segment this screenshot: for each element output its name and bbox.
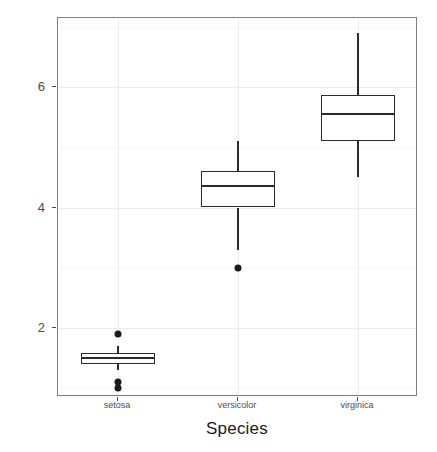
plot-panel xyxy=(57,17,417,396)
y-tick-mark xyxy=(52,327,56,328)
x-tick-mark xyxy=(237,397,238,401)
y-tick-label: 6 xyxy=(0,79,51,94)
y-tick-label: 2 xyxy=(0,319,51,334)
y-axis-ticks: 246 xyxy=(0,0,51,452)
outlier-point-versicolor xyxy=(235,264,242,271)
whisker-lower-setosa xyxy=(117,364,118,370)
x-tick-mark xyxy=(117,397,118,401)
x-axis-title: Species xyxy=(57,419,417,439)
y-tick-label: 4 xyxy=(0,199,51,214)
gridline-minor xyxy=(58,27,416,28)
outlier-point-setosa xyxy=(115,330,122,337)
x-tick-mark xyxy=(357,397,358,401)
y-tick-mark xyxy=(52,207,56,208)
whisker-upper-versicolor xyxy=(237,141,238,171)
median-line-versicolor xyxy=(201,185,275,187)
gridline-major xyxy=(58,87,416,88)
boxplot-figure: Petal.Length 246 setosaversicolorvirgini… xyxy=(0,0,437,452)
box-versicolor xyxy=(201,171,275,207)
box-virginica xyxy=(321,95,395,142)
whisker-lower-versicolor xyxy=(237,208,238,250)
y-tick-mark xyxy=(52,86,56,87)
whisker-upper-setosa xyxy=(117,346,118,354)
median-line-setosa xyxy=(81,357,155,359)
whisker-lower-virginica xyxy=(357,141,358,177)
median-line-virginica xyxy=(321,113,395,115)
gridline-minor xyxy=(58,388,416,389)
gridline-vertical xyxy=(118,18,119,395)
x-axis-title-label: Species xyxy=(206,419,268,438)
x-tick-label-versicolor: versicolor xyxy=(218,400,257,410)
whisker-upper-virginica xyxy=(357,33,358,95)
x-tick-label-virginica: virginica xyxy=(340,400,373,410)
outlier-point-setosa xyxy=(115,385,122,392)
x-tick-label-setosa: setosa xyxy=(104,400,131,410)
gridline-major xyxy=(58,328,416,329)
